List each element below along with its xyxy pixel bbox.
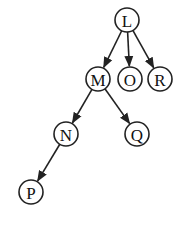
node-label: Q [131,126,143,145]
node-P: P [19,180,43,204]
node-label: N [60,126,72,145]
edge-M-N [73,89,92,122]
node-Q: Q [125,122,149,146]
edge-L-O [128,32,130,66]
node-label: O [124,71,136,90]
node-label: L [122,12,132,31]
edge-M-Q [105,89,130,124]
tree-diagram: LMORNQP [0,0,188,227]
node-label: M [90,71,105,90]
edge-N-P [38,144,60,181]
edge-L-M [104,31,122,68]
edges [38,30,154,180]
node-L: L [115,8,139,32]
node-N: N [54,122,78,146]
node-O: O [118,67,142,91]
node-M: M [86,67,110,91]
node-label: R [154,71,166,90]
edge-L-R [133,30,154,67]
node-R: R [148,67,172,91]
node-label: P [26,184,35,203]
